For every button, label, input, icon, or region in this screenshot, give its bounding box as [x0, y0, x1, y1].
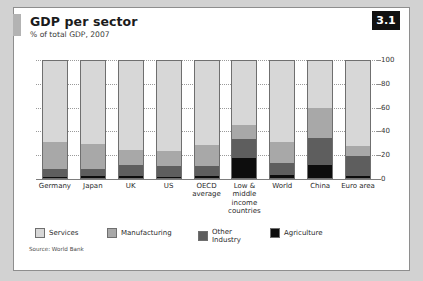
- y-axis-tick-label: 60: [381, 104, 411, 112]
- legend-item: Manufacturing: [107, 228, 172, 238]
- segment-services: [43, 61, 67, 142]
- axis-baseline: [36, 179, 381, 180]
- legend-item: Agriculture: [270, 228, 323, 238]
- plot-area: 020406080100: [36, 60, 377, 179]
- segment-manufacturing: [270, 142, 294, 163]
- y-axis-tick-label: 80: [381, 80, 411, 88]
- bar-world: [269, 60, 295, 179]
- segment-manufacturing: [81, 144, 105, 169]
- segment-services: [157, 61, 181, 151]
- segment-other-industry: [346, 156, 370, 176]
- source-note: Source: World Bank: [29, 246, 84, 252]
- chart-legend: ServicesManufacturingOther IndustryAgric…: [35, 228, 295, 246]
- y-axis-tick-label: 0: [381, 175, 411, 183]
- bar-uk: [118, 60, 144, 179]
- y-axis-tick-label: 20: [381, 151, 411, 159]
- legend-item: Other Industry: [198, 228, 241, 244]
- segment-agriculture: [308, 165, 332, 178]
- segment-agriculture: [346, 176, 370, 178]
- segment-manufacturing: [195, 145, 219, 166]
- segment-other-industry: [119, 165, 143, 176]
- chart-page: GDP per sector % of total GDP, 2007 3.1 …: [0, 0, 423, 281]
- page-subtitle: % of total GDP, 2007: [30, 30, 110, 39]
- segment-agriculture: [195, 176, 219, 178]
- legend-swatch: [270, 228, 280, 238]
- bar-germany: [42, 60, 68, 179]
- segment-manufacturing: [346, 146, 370, 155]
- legend-swatch: [198, 231, 208, 241]
- segment-services: [119, 61, 143, 150]
- page-title: GDP per sector: [30, 14, 138, 29]
- segment-services: [270, 61, 294, 142]
- segment-other-industry: [270, 163, 294, 175]
- legend-swatch: [35, 228, 45, 238]
- bar-us: [156, 60, 182, 179]
- segment-services: [232, 61, 256, 125]
- legend-label: Other Industry: [212, 228, 241, 244]
- segment-agriculture: [232, 158, 256, 178]
- segment-other-industry: [43, 169, 67, 177]
- segment-manufacturing: [232, 125, 256, 139]
- bar-low-middle-income-countries: [231, 60, 257, 179]
- segment-manufacturing: [119, 150, 143, 165]
- segment-agriculture: [157, 177, 181, 178]
- bar-china: [307, 60, 333, 179]
- segment-other-industry: [195, 166, 219, 175]
- segment-other-industry: [308, 138, 332, 165]
- segment-services: [195, 61, 219, 145]
- bar-oecd-average: [194, 60, 220, 179]
- segment-agriculture: [81, 176, 105, 178]
- segment-services: [308, 61, 332, 108]
- x-axis-label: Euro area: [334, 182, 382, 190]
- segment-agriculture: [270, 175, 294, 179]
- legend-label: Services: [49, 229, 79, 237]
- segment-manufacturing: [157, 151, 181, 166]
- chapter-number-badge: 3.1: [372, 11, 400, 30]
- y-axis-tick-label: 100: [381, 56, 411, 64]
- segment-manufacturing: [43, 142, 67, 169]
- segment-agriculture: [119, 176, 143, 178]
- legend-item: Services: [35, 228, 79, 238]
- legend-label: Manufacturing: [121, 229, 172, 237]
- segment-other-industry: [81, 169, 105, 176]
- segment-agriculture: [43, 177, 67, 178]
- bar-japan: [80, 60, 106, 179]
- title-accent-bar: [13, 14, 21, 36]
- segment-services: [81, 61, 105, 144]
- segment-manufacturing: [308, 108, 332, 138]
- y-axis-tick-label: 40: [381, 127, 411, 135]
- segment-services: [346, 61, 370, 146]
- legend-swatch: [107, 228, 117, 238]
- legend-label: Agriculture: [284, 229, 323, 237]
- segment-other-industry: [157, 166, 181, 177]
- segment-other-industry: [232, 139, 256, 158]
- bar-euro-area: [345, 60, 371, 179]
